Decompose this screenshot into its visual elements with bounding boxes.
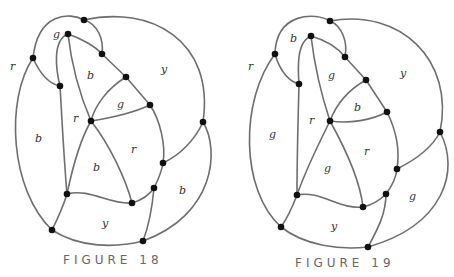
region-label: b bbox=[35, 132, 42, 145]
region-label: r bbox=[10, 60, 16, 73]
region-label: y bbox=[330, 220, 338, 233]
region-label: g bbox=[117, 98, 124, 111]
figure-18-vertices bbox=[30, 17, 207, 245]
region-label: b bbox=[93, 161, 100, 174]
region-label: y bbox=[399, 67, 407, 80]
region-label: y bbox=[160, 63, 168, 76]
region-label: r bbox=[309, 114, 315, 127]
region-label: g bbox=[328, 69, 335, 82]
region-label: b bbox=[87, 69, 94, 82]
region-label: r bbox=[248, 60, 254, 73]
figure-19-caption: FIGURE 19 bbox=[295, 256, 395, 270]
figure-18-graph bbox=[15, 16, 211, 245]
region-label: g bbox=[409, 190, 416, 203]
figure-19-graph bbox=[249, 16, 448, 248]
region-label: y bbox=[101, 217, 109, 230]
region-label: r bbox=[73, 112, 79, 125]
region-label: r bbox=[131, 143, 137, 156]
region-label: g bbox=[324, 162, 331, 175]
map-coloring-diagrams: g r b y g r b r b b y bbox=[0, 0, 454, 277]
region-label: r bbox=[364, 145, 370, 158]
figure-18-caption: FIGURE 18 bbox=[63, 253, 163, 267]
region-label: b bbox=[290, 32, 297, 45]
region-label: b bbox=[354, 101, 361, 114]
region-label: g bbox=[269, 128, 276, 141]
figure-19-region-labels: b r g y b r g r g g y bbox=[248, 32, 416, 233]
region-label: b bbox=[179, 184, 186, 197]
region-label: g bbox=[53, 28, 60, 41]
